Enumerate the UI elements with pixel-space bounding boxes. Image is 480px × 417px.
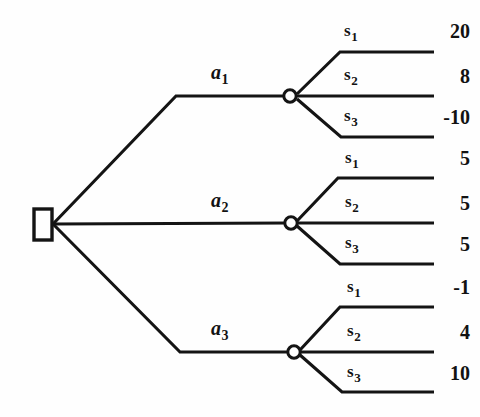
state-label-a2-s3-text: s <box>345 233 352 252</box>
state-label-a1-s1: s1 <box>344 22 358 43</box>
action-label-a1-subscript: 1 <box>221 72 229 87</box>
edge-root-to-a3 <box>53 224 292 352</box>
payoff-a2-s2: 5 <box>412 193 470 213</box>
state-label-a3-s3-text: s <box>347 362 354 381</box>
action-label-a2: a2 <box>211 190 229 215</box>
action-label-a3-subscript: 3 <box>221 328 229 343</box>
action-label-a3-text: a <box>211 317 221 339</box>
state-label-a2-s1-subscript: 1 <box>352 156 359 171</box>
state-label-a2-s3: s3 <box>345 234 359 255</box>
state-label-a1-s2-text: s <box>344 65 351 84</box>
state-label-a1-s3-text: s <box>344 106 351 125</box>
action-label-a3: a3 <box>211 318 229 343</box>
action-label-a2-subscript: 2 <box>221 200 229 215</box>
state-label-a3-s2-subscript: 2 <box>354 329 361 344</box>
payoff-a1-s2: 8 <box>412 66 470 86</box>
state-label-a3-s3-subscript: 3 <box>354 370 361 385</box>
payoff-a1-s3: -10 <box>412 107 470 127</box>
edge-root-to-a1 <box>53 96 289 224</box>
state-label-a2-s2: s2 <box>345 193 359 214</box>
state-label-a3-s1-subscript: 1 <box>354 285 361 300</box>
state-label-a1-s1-text: s <box>344 21 351 40</box>
state-label-a3-s1-text: s <box>347 277 354 296</box>
edge-root-to-a2 <box>53 223 289 224</box>
state-label-a1-s2: s2 <box>344 66 358 87</box>
action-label-a1-text: a <box>211 61 221 83</box>
state-label-a1-s1-subscript: 1 <box>351 29 358 44</box>
payoff-a1-s1: 20 <box>412 21 470 41</box>
decision-node-square[interactable] <box>34 209 52 240</box>
payoff-a2-s1: 5 <box>412 148 470 168</box>
state-label-a2-s2-text: s <box>345 192 352 211</box>
state-label-a3-s2-text: s <box>347 321 354 340</box>
state-label-a1-s3-subscript: 3 <box>351 114 358 129</box>
state-label-a2-s1: s1 <box>345 149 359 170</box>
payoff-a3-s1: -1 <box>412 277 470 297</box>
chance-node-a3[interactable] <box>288 346 300 358</box>
decision-tree-diagram: a1 a2 a3 s1 s2 s3 s1 s2 s3 s1 s2 s3 20 8… <box>0 0 480 417</box>
state-label-a3-s3: s3 <box>347 363 361 384</box>
state-label-a2-s3-subscript: 3 <box>352 241 359 256</box>
payoff-a3-s3: 10 <box>412 363 470 383</box>
tree-graphics <box>0 0 480 417</box>
payoff-a2-s3: 5 <box>412 234 470 254</box>
chance-node-a1[interactable] <box>284 90 296 102</box>
payoff-a3-s2: 4 <box>412 322 470 342</box>
action-label-a1: a1 <box>211 62 229 87</box>
action-label-a2-text: a <box>211 189 221 211</box>
state-label-a1-s3: s3 <box>344 107 358 128</box>
state-label-a1-s2-subscript: 2 <box>351 73 358 88</box>
state-label-a3-s1: s1 <box>347 278 361 299</box>
state-label-a2-s1-text: s <box>345 148 352 167</box>
chance-node-a2[interactable] <box>285 217 297 229</box>
state-label-a3-s2: s2 <box>347 322 361 343</box>
state-label-a2-s2-subscript: 2 <box>352 200 359 215</box>
